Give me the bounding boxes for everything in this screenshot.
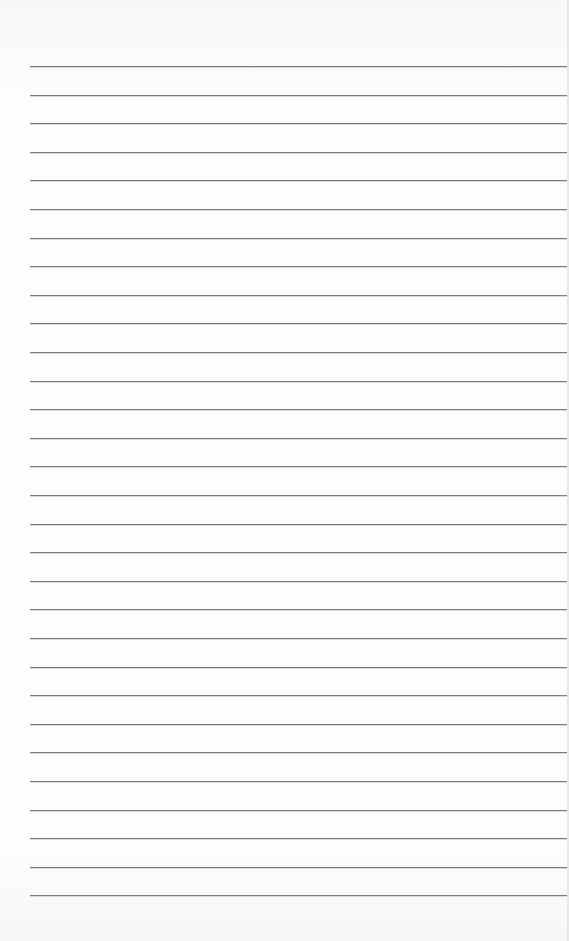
ruled-line [30, 552, 569, 553]
ruled-line [30, 810, 569, 811]
lined-paper-sheet [0, 0, 569, 941]
ruled-line [30, 352, 569, 353]
ruled-line [30, 180, 569, 181]
ruled-line [30, 838, 569, 839]
ruled-line [30, 152, 569, 153]
ruled-line [30, 123, 569, 124]
ruled-line [30, 581, 569, 582]
ruled-line [30, 724, 569, 725]
ruled-line [30, 323, 569, 324]
ruled-line [30, 66, 569, 67]
ruled-line [30, 495, 569, 496]
ruled-line [30, 95, 569, 96]
ruled-line [30, 266, 569, 267]
ruled-line [30, 867, 569, 868]
ruled-line [30, 695, 569, 696]
ruled-line [30, 609, 569, 610]
ruled-line [30, 524, 569, 525]
ruled-line [30, 752, 569, 753]
ruled-line [30, 295, 569, 296]
ruled-line [30, 438, 569, 439]
ruled-line [30, 238, 569, 239]
ruled-line [30, 409, 569, 410]
ruled-line [30, 209, 569, 210]
ruled-line [30, 895, 569, 896]
ruled-line [30, 381, 569, 382]
ruled-line [30, 781, 569, 782]
ruled-line [30, 667, 569, 668]
ruled-line [30, 638, 569, 639]
ruled-line [30, 466, 569, 467]
